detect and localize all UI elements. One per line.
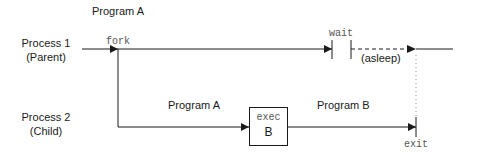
exec-label: exec [250,112,287,124]
asleep-label: (asleep) [361,52,401,65]
wait-arrow-icon [324,45,332,53]
wake-arrow-icon [407,45,416,53]
exec-target-label: B [250,126,287,139]
process-2-role: (Child) [16,125,76,138]
wait-label: wait [329,28,353,40]
diagram-title: Program A [92,5,144,18]
process-1-name: Process 1 [16,37,76,50]
exit-label: exit [404,139,428,151]
process-1-role: (Parent) [16,51,76,64]
fork-label: fork [106,36,130,48]
child-program-b-label: Program B [317,99,370,112]
exit-arrow-icon [408,123,416,131]
fork-exec-diagram: Program A Process 1 (Parent) Process 2 (… [0,0,477,163]
child-program-a-label: Program A [168,99,220,112]
exec-arrow-icon [241,123,249,131]
process-2-name: Process 2 [16,111,76,124]
